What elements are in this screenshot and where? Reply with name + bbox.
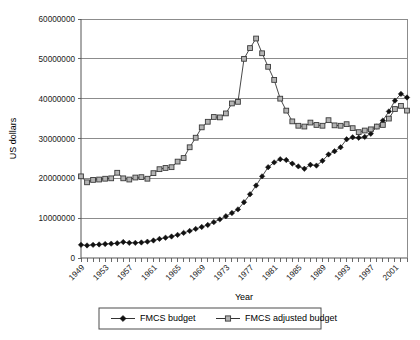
data-point-marker [253, 183, 258, 188]
data-point-marker [211, 115, 216, 120]
data-point-marker [242, 56, 247, 61]
line-chart: 0100000002000000030000000400000005000000… [0, 0, 420, 340]
data-point-marker [302, 166, 307, 171]
data-point-marker [79, 174, 84, 179]
data-point-marker [211, 219, 216, 224]
data-point-marker [350, 135, 355, 140]
data-point-marker [236, 99, 241, 104]
x-axis-tick-label: 1965 [164, 263, 184, 283]
y-axis-tick-label: 10000000 [39, 214, 76, 223]
data-point-marker [175, 159, 180, 164]
data-point-marker [248, 46, 253, 51]
data-point-marker [127, 240, 132, 245]
data-point-marker [193, 226, 198, 231]
legend-marker-icon [225, 316, 230, 321]
data-point-marker [290, 161, 295, 166]
data-point-marker [121, 239, 126, 244]
data-point-marker [139, 240, 144, 245]
data-point-marker [344, 122, 349, 127]
series-line-1 [81, 94, 407, 246]
data-point-marker [223, 111, 228, 116]
data-point-marker [260, 51, 265, 56]
chart-container: 0100000002000000030000000400000005000000… [0, 0, 420, 340]
x-axis-tick-label: 1953 [91, 263, 111, 283]
data-point-marker [217, 115, 222, 120]
data-point-marker [266, 64, 271, 69]
data-point-marker [90, 242, 95, 247]
data-point-marker [199, 125, 204, 130]
data-point-marker [356, 130, 361, 135]
data-point-marker [338, 123, 343, 128]
x-axis-tick-label: 1969 [188, 263, 208, 283]
gridlines [81, 19, 407, 218]
data-point-marker [254, 36, 259, 41]
data-point-marker [199, 224, 204, 229]
data-point-marker [103, 176, 108, 181]
data-point-marker [386, 109, 391, 114]
y-axis-ticks: 0100000002000000030000000400000005000000… [39, 15, 81, 263]
data-point-marker [84, 243, 89, 248]
data-point-marker [157, 167, 162, 172]
data-point-marker [169, 165, 174, 170]
data-point-marker [332, 149, 337, 154]
y-axis-tick-label: 60000000 [39, 15, 76, 24]
data-point-marker [157, 236, 162, 241]
data-point-marker [284, 157, 289, 162]
x-axis-tick-label: 1985 [285, 263, 305, 283]
x-axis-tick-label: 1989 [309, 263, 329, 283]
x-axis-tick-label: 1977 [236, 263, 256, 283]
data-point-marker [393, 107, 398, 112]
data-point-marker [97, 177, 102, 182]
data-point-marker [181, 230, 186, 235]
data-series [78, 36, 409, 248]
x-axis-title: Year [235, 292, 253, 302]
data-point-marker [145, 239, 150, 244]
data-point-marker [145, 176, 150, 181]
data-point-marker [193, 135, 198, 140]
data-point-marker [368, 127, 373, 132]
data-point-marker [350, 126, 355, 131]
data-point-marker [91, 178, 96, 183]
data-point-marker [78, 242, 83, 247]
data-point-marker [109, 176, 114, 181]
x-axis-tick-label: 1957 [115, 263, 135, 283]
legend-item-label: FMCS budget [140, 313, 196, 323]
x-axis-tick-label: 1981 [260, 263, 280, 283]
data-point-marker [362, 128, 367, 133]
data-point-marker [133, 175, 138, 180]
data-point-marker [272, 78, 277, 83]
data-point-marker [205, 119, 210, 124]
data-point-marker [284, 108, 289, 113]
data-point-marker [278, 157, 283, 162]
y-axis-tick-label: 50000000 [39, 55, 76, 64]
y-axis-tick-label: 40000000 [39, 95, 76, 104]
x-axis-tick-label: 1993 [333, 263, 353, 283]
data-point-marker [163, 166, 168, 171]
x-axis-tick-label: 1997 [357, 263, 377, 283]
x-axis-tick-label: 1973 [212, 263, 232, 283]
data-point-marker [308, 162, 313, 167]
y-axis-title: US dollars [8, 117, 18, 159]
x-axis-ticks: 1949195319571961196519691973197719811985… [67, 258, 407, 282]
data-point-marker [308, 120, 313, 125]
data-point-marker [121, 176, 126, 181]
data-point-marker [374, 124, 379, 129]
data-point-marker [85, 180, 90, 185]
data-point-marker [133, 240, 138, 245]
data-point-marker [108, 241, 113, 246]
data-point-marker [229, 210, 234, 215]
data-point-marker [302, 124, 307, 129]
data-point-marker [230, 101, 235, 106]
x-axis-tick-label: 1961 [140, 263, 160, 283]
data-point-marker [290, 119, 295, 124]
data-point-marker [320, 123, 325, 128]
data-point-marker [296, 164, 301, 169]
data-point-marker [217, 217, 222, 222]
y-axis-tick-label: 30000000 [39, 135, 76, 144]
y-axis-tick-label: 0 [70, 254, 75, 263]
data-point-marker [380, 123, 385, 128]
data-point-marker [163, 235, 168, 240]
y-axis-tick-label: 20000000 [39, 174, 76, 183]
data-point-marker [404, 95, 409, 100]
data-point-marker [205, 222, 210, 227]
